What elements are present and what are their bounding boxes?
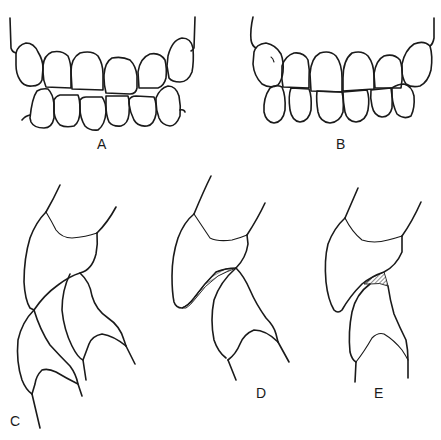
panel-d-profile	[172, 176, 289, 380]
panel-label-a: A	[97, 136, 106, 152]
panel-e-profile	[325, 188, 421, 382]
panel-label-d: D	[256, 385, 266, 401]
panel-b-teeth	[251, 17, 434, 123]
panel-c-profile	[18, 185, 136, 428]
panel-a-teeth	[10, 17, 195, 130]
panel-label-c: C	[10, 413, 20, 429]
panel-label-e: E	[374, 385, 383, 401]
dental-occlusion-diagram	[0, 0, 441, 440]
panel-label-b: B	[336, 136, 345, 152]
